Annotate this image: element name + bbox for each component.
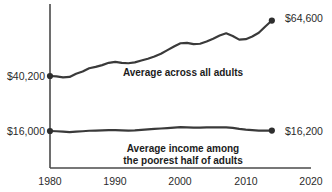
end-marker-poorest-half [269, 127, 275, 133]
x-tick-label-1980: 1980 [38, 175, 62, 187]
x-tick-label-2020: 2020 [299, 175, 323, 187]
start-value-label-poorest-half: $16,000 [7, 125, 45, 137]
annotation-all-adults: Average across all adults [123, 67, 244, 78]
end-value-label-all-adults: $64,600 [285, 12, 323, 24]
annotation-poorest-half-line2: the poorest half of adults [123, 155, 243, 166]
x-tick-label-1990: 1990 [103, 175, 127, 187]
end-value-label-poorest-half: $16,200 [285, 125, 323, 137]
x-tick-label-2000: 2000 [168, 175, 192, 187]
series-line-poorest-half [50, 127, 272, 132]
income-line-chart: 1980 1990 2000 2010 2020 $40,200 $16,000… [0, 0, 332, 192]
chart-canvas: 1980 1990 2000 2010 2020 $40,200 $16,000… [0, 0, 332, 192]
start-marker-poorest-half [47, 128, 53, 134]
start-marker-all-adults [47, 73, 53, 79]
annotation-poorest-half-line1: Average income among [127, 143, 239, 154]
end-marker-all-adults [269, 17, 275, 23]
x-tick-label-2010: 2010 [234, 175, 258, 187]
start-value-label-all-adults: $40,200 [7, 70, 45, 82]
